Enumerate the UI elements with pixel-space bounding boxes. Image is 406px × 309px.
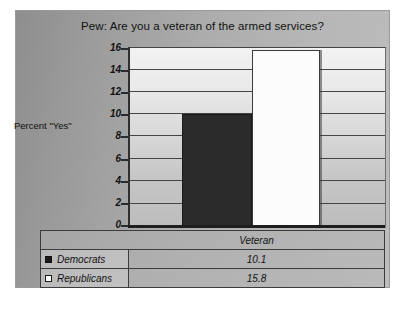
legend-swatch-open-square-icon [45,275,52,282]
bar-democrats-veteran [182,114,252,228]
y-axis-label: Percent "Yes" [14,120,106,131]
y-tick-mark-2 [121,203,128,205]
legend-label-democrats: Democrats [57,254,105,265]
y-tick-mark-12 [121,92,128,94]
chart-title: Pew: Are you a veteran of the armed serv… [15,20,390,32]
y-tick-label-2: 2 [95,197,121,208]
y-tick-label-10: 10 [95,108,121,119]
legend-item-republicans: Republicans [41,269,129,287]
y-tick-mark-16 [121,48,128,50]
table-header-veteran: Veteran [129,231,384,249]
bar-republicans-veteran [252,50,320,228]
data-table: Veteran Democrats 10.1 Republicans 15.8 [40,230,385,288]
legend-item-democrats: Democrats [41,250,129,268]
y-tick-mark-4 [121,181,128,183]
x-axis-baseline [128,225,385,228]
table-row-republicans: Republicans 15.8 [41,269,384,287]
y-tick-mark-0 [121,225,128,227]
y-tick-mark-10 [121,114,128,116]
value-republicans-veteran: 15.8 [129,269,384,287]
y-tick-label-16: 16 [95,42,121,53]
value-democrats-veteran: 10.1 [129,250,384,268]
table-row-democrats: Democrats 10.1 [41,250,384,269]
y-tick-label-12: 12 [95,86,121,97]
plot-area [128,47,386,228]
y-tick-label-8: 8 [95,130,121,141]
legend-label-republicans: Republicans [57,273,112,284]
gridline-16 [130,47,385,48]
chart-container: Pew: Are you a veteran of the armed serv… [0,0,406,309]
table-header-row: Veteran [41,231,384,250]
y-tick-label-14: 14 [95,64,121,75]
y-tick-mark-6 [121,159,128,161]
table-header-corner [41,231,129,249]
y-tick-label-6: 6 [95,153,121,164]
y-tick-mark-8 [121,136,128,138]
y-tick-mark-14 [121,70,128,72]
y-tick-label-4: 4 [95,175,121,186]
legend-swatch-filled-square-icon [45,256,52,263]
y-tick-label-0: 0 [95,219,121,230]
